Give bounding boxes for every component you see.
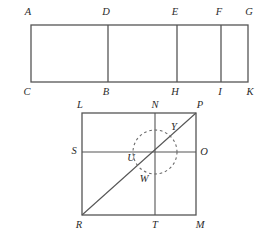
bottom-square-figure: L N P S O U Y W R T M [71,99,208,230]
label-S: S [71,145,77,156]
label-L: L [76,99,83,110]
label-Y: Y [171,121,178,132]
label-C: C [23,86,31,97]
label-R: R [75,219,83,230]
label-O: O [200,146,208,157]
diagonal-segment-rp [82,113,196,215]
figure-canvas: A D E F G C B H I K L N P [0,0,268,242]
label-D: D [101,6,110,17]
top-rectangle-outline [31,25,248,82]
label-T: T [152,219,159,230]
label-B: B [103,86,110,97]
label-G: G [245,6,253,17]
label-A: A [24,6,32,17]
top-divided-rectangle: A D E F G C B H I K [23,6,254,97]
label-W: W [140,173,150,184]
label-M: M [195,219,206,230]
label-F: F [215,6,223,17]
label-I: I [217,86,222,97]
label-P: P [196,99,204,110]
label-U: U [127,152,136,163]
geometry-figure: A D E F G C B H I K L N P [0,0,268,242]
label-E: E [171,6,179,17]
label-K: K [245,86,254,97]
label-N: N [150,99,159,110]
label-H: H [170,86,180,97]
